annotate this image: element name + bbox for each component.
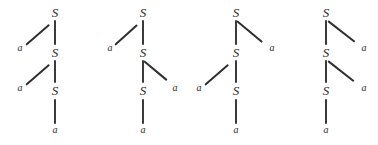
tree-1-node-a-level1: a [18, 43, 23, 53]
tree-2-edge-S2-to-a [142, 99, 144, 124]
derivation-tree-4: S a S a S a [280, 0, 375, 145]
tree-4-edge-S1-to-a [327, 60, 354, 82]
tree-2-node-S-level2: S [140, 84, 147, 97]
tree-2-edge-S1-to-a [143, 60, 167, 81]
tree-3-edge-S2-to-a [235, 99, 237, 124]
tree-3-edge-S1-to-a [204, 64, 229, 86]
tree-1-node-a-level3: a [53, 125, 58, 135]
tree-4-node-a-level1: a [362, 43, 367, 53]
tree-4-node-S-level1: S [323, 46, 330, 59]
tree-2-node-a-level1: a [108, 43, 113, 53]
tree-3-node-a-level2: a [197, 83, 202, 93]
tree-3-edge-S1-to-S2 [235, 60, 237, 83]
tree-2-node-S-root: S [140, 6, 147, 19]
tree-3-node-S-root: S [233, 6, 240, 19]
derivation-tree-2: S a S a S a [98, 0, 193, 145]
tree-3-edge-root-to-S [235, 20, 237, 45]
tree-3-node-a-level3: a [234, 125, 239, 135]
tree-4-edge-root-to-a [327, 20, 355, 43]
tree-3-node-S-level1: S [233, 46, 240, 59]
tree-3-edge-root-to-a [236, 20, 263, 43]
tree-4-node-a-level2: a [362, 83, 367, 93]
tree-2-edge-S1-to-S2 [142, 60, 144, 83]
tree-1-edge-S2-to-a [54, 99, 56, 124]
tree-1-node-S-level1: S [52, 46, 59, 59]
tree-1-edge-S1-to-a [25, 64, 50, 86]
tree-2-node-a-level2: a [173, 83, 178, 93]
tree-1-edge-S1-to-S2 [54, 60, 56, 83]
tree-1-edge-root-to-S [54, 20, 56, 45]
tree-2-edge-root-to-S [142, 20, 144, 45]
tree-2-edge-root-to-a [114, 24, 138, 46]
tree-1-node-S-level2: S [52, 84, 59, 97]
tree-4-node-S-root: S [323, 6, 330, 19]
tree-3-node-S-level2: S [233, 84, 240, 97]
tree-4-edge-root-to-S [325, 20, 327, 45]
derivation-trees-figure: S a S a S a S a S a S a S a S a S a [0, 0, 378, 145]
tree-4-node-a-level3: a [324, 125, 329, 135]
tree-2-node-S-level1: S [140, 46, 147, 59]
tree-2-node-a-level3: a [141, 125, 146, 135]
derivation-tree-3: S a S a S a [190, 0, 285, 145]
tree-4-edge-S2-to-a [325, 99, 327, 124]
derivation-tree-1: S a S a S a [8, 0, 103, 145]
tree-3-node-a-level1: a [270, 43, 275, 53]
tree-1-node-S-root: S [52, 6, 59, 19]
tree-1-node-a-level2: a [18, 83, 23, 93]
tree-4-edge-S1-to-S2 [325, 60, 327, 83]
tree-4-node-S-level2: S [323, 84, 330, 97]
tree-1-edge-root-to-a [25, 24, 50, 46]
